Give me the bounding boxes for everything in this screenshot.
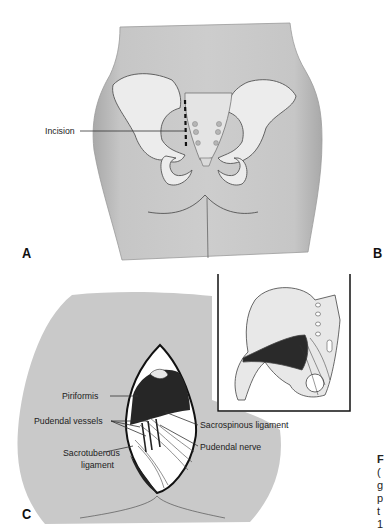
- caption-char: F: [377, 453, 384, 466]
- label-sacrospinous-ligament: Sacrospinous ligament: [200, 419, 288, 430]
- caption-char: (: [377, 466, 381, 479]
- label-piriformis: Piriformis: [62, 390, 98, 401]
- label-pudendal-vessels: Pudendal vessels: [34, 415, 103, 426]
- caption-char: 1: [377, 518, 383, 530]
- caption-char: t: [377, 505, 380, 518]
- label-ligament: ligament: [81, 459, 114, 470]
- caption-char: p: [377, 492, 383, 505]
- caption-char: g: [377, 479, 383, 492]
- panel-letter-c: C: [22, 505, 31, 522]
- label-sacrotuberous: Sacrotuberous: [63, 447, 120, 458]
- label-pudendal-nerve: Pudendal nerve: [200, 441, 261, 452]
